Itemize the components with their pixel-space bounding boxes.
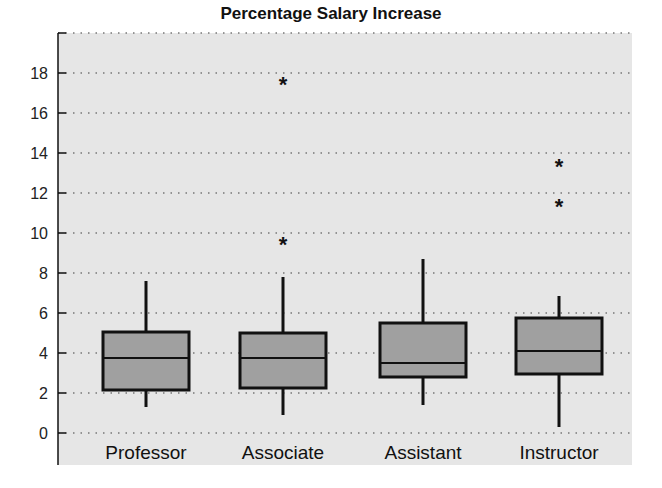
outlier-asterisk: * (555, 154, 564, 179)
y-tick-label: 2 (39, 385, 48, 402)
y-tick-label: 16 (30, 105, 48, 122)
iqr-box (380, 323, 466, 377)
x-category-label: Professor (105, 442, 187, 463)
y-tick-label: 0 (39, 425, 48, 442)
y-tick-label: 10 (30, 225, 48, 242)
iqr-box (103, 332, 189, 390)
outlier-asterisk: * (279, 232, 288, 257)
outlier-asterisk: * (279, 72, 288, 97)
plot-background (58, 33, 632, 465)
x-category-label: Associate (242, 442, 324, 463)
iqr-box (516, 318, 602, 374)
iqr-box (240, 333, 326, 388)
x-category-label: Instructor (519, 442, 599, 463)
y-tick-label: 4 (39, 345, 48, 362)
boxplot-chart: 024681012141618 **** ProfessorAssociateA… (0, 0, 662, 488)
outlier-asterisk: * (555, 194, 564, 219)
y-tick-label: 8 (39, 265, 48, 282)
y-tick-label: 12 (30, 185, 48, 202)
y-tick-label: 6 (39, 305, 48, 322)
x-category-label: Assistant (384, 442, 462, 463)
y-tick-label: 14 (30, 145, 48, 162)
y-tick-label: 18 (30, 65, 48, 82)
